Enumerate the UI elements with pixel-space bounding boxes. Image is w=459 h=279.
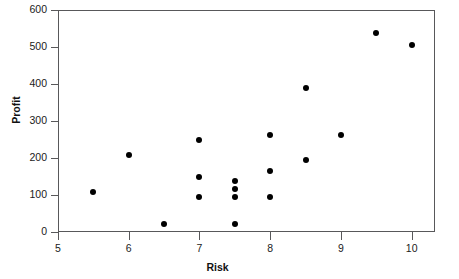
data-point: [161, 221, 167, 227]
plot-area: [58, 10, 435, 232]
data-point: [338, 132, 344, 138]
x-axis-title-text: Risk: [206, 261, 228, 273]
data-point: [267, 194, 273, 200]
y-axis-title: Profit: [10, 80, 22, 140]
y-axis-tick: [51, 47, 58, 48]
x-axis-tick-label: 6: [109, 243, 149, 254]
x-axis-tick-label: 8: [250, 243, 290, 254]
x-axis-tick-label: 7: [179, 243, 219, 254]
y-axis-tick: [51, 158, 58, 159]
y-axis-tick: [51, 121, 58, 122]
data-point: [232, 178, 238, 184]
data-point: [232, 221, 238, 227]
scatter-chart: 0100200300400500600 5678910 Profit Risk: [0, 0, 459, 279]
data-point: [409, 42, 415, 48]
x-axis-tick: [412, 232, 413, 240]
y-axis-tick-label: 200: [4, 152, 47, 163]
x-axis-tick: [270, 232, 271, 240]
y-axis-tick: [51, 84, 58, 85]
x-axis-tick-label: 5: [38, 243, 78, 254]
data-point: [303, 157, 309, 163]
y-axis-tick-label: 0: [4, 226, 47, 237]
x-axis-tick: [58, 232, 59, 240]
y-axis-tick-label: 100: [4, 189, 47, 200]
y-axis-tick: [51, 232, 58, 233]
y-axis-tick-label: 600: [4, 4, 47, 15]
y-axis-tick: [51, 195, 58, 196]
x-axis-tick-label: 9: [321, 243, 361, 254]
x-axis-tick-label: 10: [392, 243, 432, 254]
y-axis-tick-label: 500: [4, 41, 47, 52]
data-point: [232, 194, 238, 200]
x-axis-tick: [341, 232, 342, 240]
data-point: [303, 85, 309, 91]
x-axis-title: Risk: [0, 261, 459, 273]
data-point: [126, 152, 132, 158]
data-point: [232, 186, 238, 192]
y-axis-tick: [51, 10, 58, 11]
x-axis-tick: [199, 232, 200, 240]
x-axis-tick: [129, 232, 130, 240]
